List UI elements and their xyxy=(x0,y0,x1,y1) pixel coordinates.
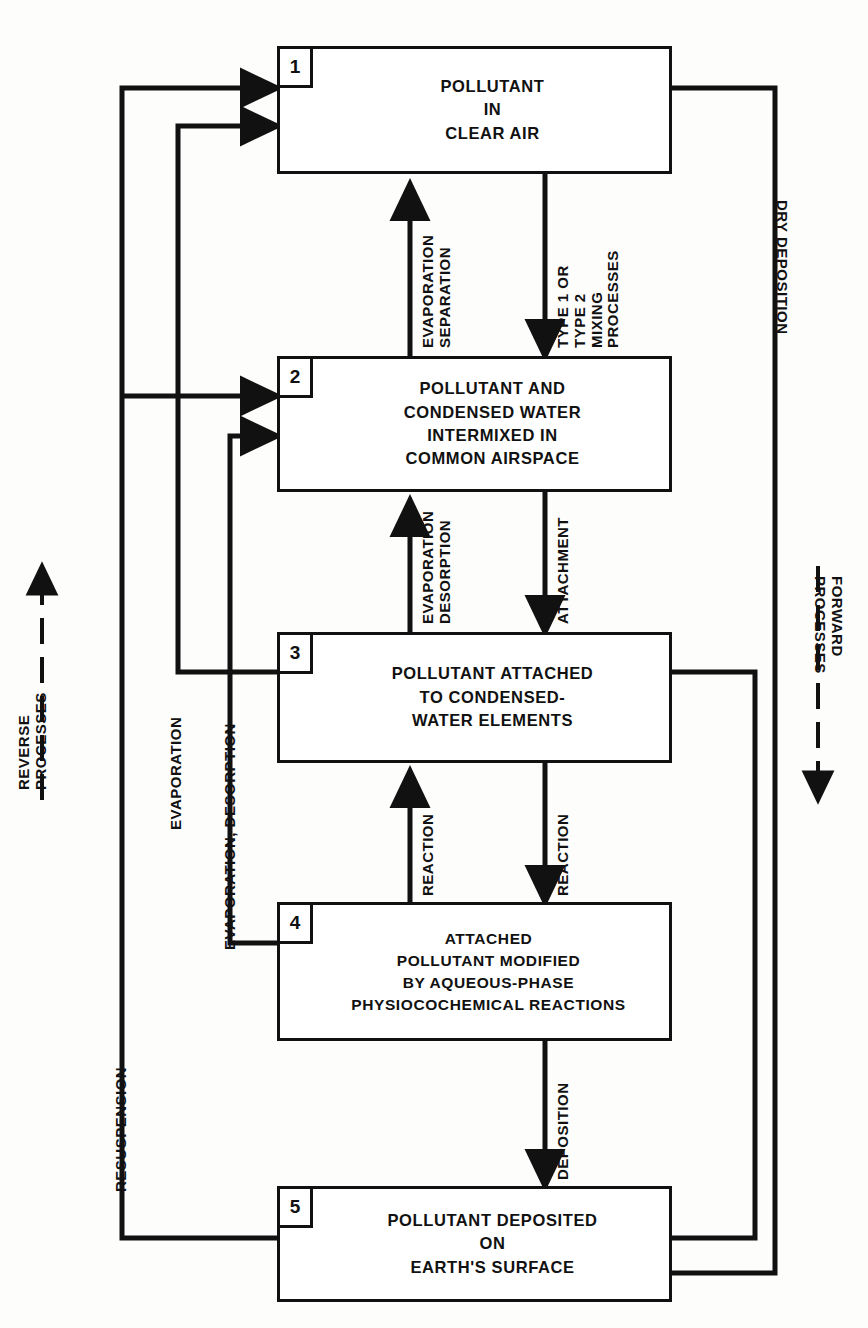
label-resuspension-line-1: RESUSPENSION xyxy=(113,1067,130,1192)
box-number-5: 5 xyxy=(277,1186,313,1228)
box-1-line-3: CLEAR AIR xyxy=(445,122,540,145)
label-attachment-line-1: ATTACHMENT xyxy=(555,517,572,624)
label-reaction-up: REACTION xyxy=(420,814,437,896)
box-number-2: 2 xyxy=(277,356,313,398)
label-type-mixing-line-4: PROCESSES xyxy=(605,250,622,348)
label-reaction-down: REACTION xyxy=(555,814,572,896)
box-4-line-3: BY AQUEOUS-PHASE xyxy=(403,972,575,994)
label-type-mixing-line-2: TYPE 2 xyxy=(572,250,589,348)
box-5-line-2: ON xyxy=(480,1232,506,1255)
label-evaporation-line-1: EVAPORATION xyxy=(168,717,185,830)
label-evaporation-separation-line-2: SEPARATION xyxy=(437,235,454,348)
box-1-line-1: POLLUTANT xyxy=(440,75,544,98)
label-evaporation-separation: EVAPORATION SEPARATION xyxy=(420,235,454,348)
legend-forward-line-2: PROCESSES xyxy=(811,576,828,674)
legend-reverse-line-2: PROCESSES xyxy=(33,692,50,790)
label-deposition: DEPOSITION xyxy=(555,1082,572,1180)
legend-reverse-line-1: REVERSE xyxy=(16,692,33,790)
label-attachment: ATTACHMENT xyxy=(555,517,572,624)
box-2-line-2: CONDENSED WATER xyxy=(404,401,581,424)
box-2-line-3: INTERMIXED IN xyxy=(427,424,558,447)
process-box-2[interactable]: 2 POLLUTANT AND CONDENSED WATER INTERMIX… xyxy=(277,356,672,492)
box-1-text: POLLUTANT IN CLEAR AIR xyxy=(320,49,665,171)
label-dry-deposition-line-1: DRY DEPOSITION xyxy=(773,200,790,335)
label-evaporation-desorption-long: EVAPORATION, DESORPTION xyxy=(222,723,239,950)
box-number-4: 4 xyxy=(277,902,313,944)
box-2-line-4: COMMON AIRSPACE xyxy=(406,447,580,470)
process-box-5[interactable]: 5 POLLUTANT DEPOSITED ON EARTH'S SURFACE xyxy=(277,1186,672,1302)
box-5-line-1: POLLUTANT DEPOSITED xyxy=(387,1209,597,1232)
box-5-text: POLLUTANT DEPOSITED ON EARTH'S SURFACE xyxy=(320,1189,665,1299)
legend-reverse-processes: REVERSE PROCESSES xyxy=(16,692,50,790)
box-2-line-1: POLLUTANT AND xyxy=(419,377,565,400)
label-evaporation-desorption-line-1: EVAPORATION xyxy=(420,511,437,624)
legend-forward-line-1: FORWARD xyxy=(828,576,845,674)
box-3-text: POLLUTANT ATTACHED TO CONDENSED- WATER E… xyxy=(320,635,665,760)
figure-canvas: 1 POLLUTANT IN CLEAR AIR 2 POLLUTANT AND… xyxy=(0,0,868,1328)
label-dry-deposition: DRY DEPOSITION xyxy=(773,200,790,335)
process-box-3[interactable]: 3 POLLUTANT ATTACHED TO CONDENSED- WATER… xyxy=(277,632,672,763)
box-5-line-3: EARTH'S SURFACE xyxy=(410,1256,574,1279)
label-type-mixing-processes: TYPE 1 OR TYPE 2 MIXING PROCESSES xyxy=(555,250,622,348)
label-reaction-up-line-1: REACTION xyxy=(420,814,437,896)
legend-forward-processes: FORWARD PROCESSES xyxy=(811,576,845,674)
label-type-mixing-line-1: TYPE 1 OR xyxy=(555,250,572,348)
box-4-text: ATTACHED POLLUTANT MODIFIED BY AQUEOUS-P… xyxy=(310,905,667,1038)
label-resuspension: RESUSPENSION xyxy=(113,1067,130,1192)
box-4-line-2: POLLUTANT MODIFIED xyxy=(397,950,581,972)
label-reaction-down-line-1: REACTION xyxy=(555,814,572,896)
label-evaporation: EVAPORATION xyxy=(168,717,185,830)
box-3-line-3: WATER ELEMENTS xyxy=(412,709,573,732)
label-evaporation-separation-line-1: EVAPORATION xyxy=(420,235,437,348)
box-3-line-1: POLLUTANT ATTACHED xyxy=(392,662,594,685)
box-number-1: 1 xyxy=(277,46,313,88)
label-evaporation-desorption-line-2: DESORPTION xyxy=(437,511,454,624)
process-box-4[interactable]: 4 ATTACHED POLLUTANT MODIFIED BY AQUEOUS… xyxy=(277,902,672,1041)
box-1-line-2: IN xyxy=(484,98,502,121)
box-4-line-4: PHYSIOCOCHEMICAL REACTIONS xyxy=(351,994,626,1016)
label-evaporation-desorption: EVAPORATION DESORPTION xyxy=(420,511,454,624)
box-2-text: POLLUTANT AND CONDENSED WATER INTERMIXED… xyxy=(320,359,665,489)
label-evaporation-desorption-long-line-1: EVAPORATION, DESORPTION xyxy=(222,723,239,950)
box-4-line-1: ATTACHED xyxy=(445,928,533,950)
box-number-3: 3 xyxy=(277,632,313,674)
label-type-mixing-line-3: MIXING xyxy=(589,250,606,348)
process-box-1[interactable]: 1 POLLUTANT IN CLEAR AIR xyxy=(277,46,672,174)
edge-5-to-1-resuspension xyxy=(122,88,287,1238)
box-3-line-2: TO CONDENSED- xyxy=(420,686,566,709)
label-deposition-line-1: DEPOSITION xyxy=(555,1082,572,1180)
